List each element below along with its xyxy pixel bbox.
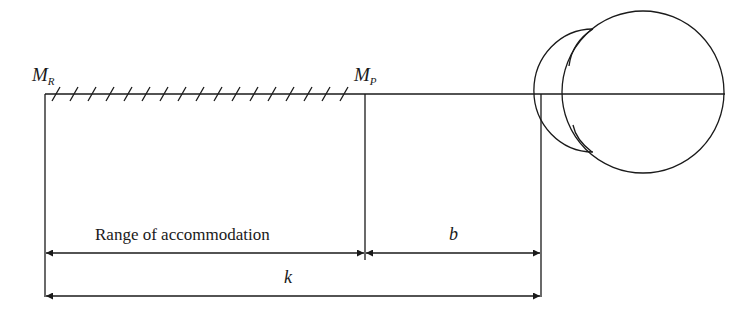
near-point-label: MP	[354, 64, 377, 87]
far-point-symbol: M	[32, 64, 48, 85]
accommodation-diagram	[0, 0, 748, 316]
near-point-symbol: M	[354, 64, 370, 85]
range-of-accommodation-label: Range of accommodation	[95, 225, 270, 245]
b-label: b	[449, 224, 458, 245]
k-label: k	[284, 267, 292, 288]
near-point-subscript: P	[370, 75, 377, 87]
eye-icon	[534, 11, 724, 173]
far-point-subscript: R	[48, 75, 55, 87]
far-point-label: MR	[32, 64, 55, 87]
